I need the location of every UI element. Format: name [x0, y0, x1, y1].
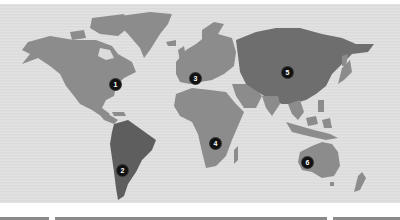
south-america	[110, 120, 156, 200]
map-marker-north-america[interactable]: 1	[110, 79, 121, 90]
footer-bar-middle	[55, 217, 327, 220]
map-marker-asia[interactable]: 5	[282, 67, 293, 78]
arctic-islands	[90, 14, 128, 36]
map-marker-south-america[interactable]: 2	[117, 165, 128, 176]
continents	[0, 4, 400, 203]
world-map: 1 3 2 4 5 6	[0, 4, 400, 203]
map-marker-europe[interactable]: 3	[190, 73, 201, 84]
map-marker-australia[interactable]: 6	[302, 157, 313, 168]
map-marker-africa[interactable]: 4	[210, 138, 221, 149]
footer-strip	[0, 203, 400, 220]
india	[262, 96, 280, 116]
footer-bar-left	[0, 217, 49, 220]
north-america	[22, 36, 136, 118]
greenland	[120, 12, 172, 58]
africa	[174, 88, 244, 168]
new-zealand	[354, 172, 366, 192]
footer-bar-right	[333, 217, 400, 220]
